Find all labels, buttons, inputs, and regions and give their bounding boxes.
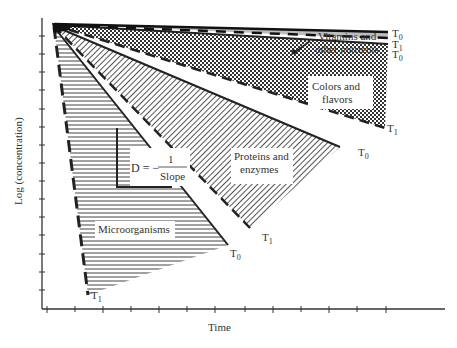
vitamins-label-line2: other nutrients — [315, 43, 379, 55]
microorganisms-t0-label: T0 — [230, 247, 241, 262]
microorganisms-label: Microorganisms — [98, 223, 170, 235]
formula-numerator: 1 — [168, 153, 174, 165]
colors-label-line2: flavors — [322, 93, 353, 105]
proteins-t0-label: T0 — [358, 146, 369, 161]
x-axis-label: Time — [208, 321, 231, 333]
proteins-label-line1: Proteins and — [234, 150, 289, 162]
formula-denominator: Slope — [160, 170, 185, 182]
proteins-label-line2: enzymes — [240, 163, 278, 175]
y-axis — [39, 18, 45, 309]
formula-lhs: D = − — [131, 161, 159, 175]
vitamins-label-line1: Vitamins and — [318, 30, 377, 42]
proteins-t1-label: T1 — [262, 231, 273, 246]
y-axis-label: Log (concentration) — [12, 117, 25, 205]
x-axis — [42, 306, 445, 313]
colors-label-line1: Colors and — [312, 80, 360, 92]
deterioration-diagram: Vitamins and other nutrients Colors and … — [0, 0, 457, 348]
colors-t1-label: T1 — [387, 122, 398, 137]
microorganisms-t1-label: T1 — [91, 289, 102, 304]
